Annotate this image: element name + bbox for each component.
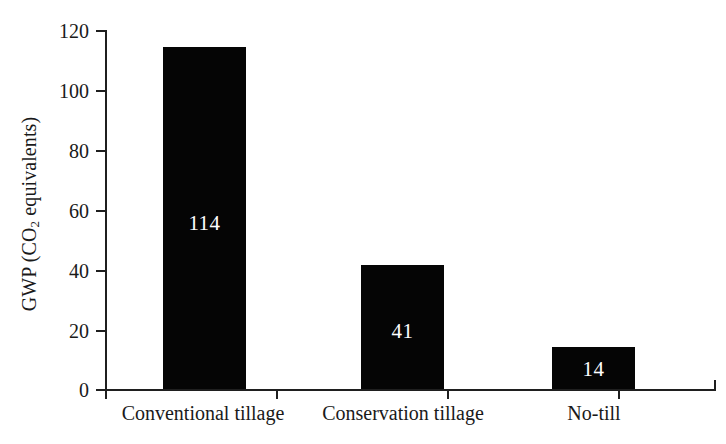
x-tick-2 [447,389,449,399]
y-axis-title-subscript: 2 [27,221,42,228]
y-tick-label-0: 0 [79,380,89,400]
bar-value-conservation-tillage: 41 [361,321,444,342]
x-tick-1 [276,389,278,399]
y-tick-80: 80 [96,150,105,152]
y-tick-label-20: 20 [69,321,89,341]
y-axis-line [105,30,107,391]
x-axis-label-conservation-tillage: Conservation tillage [305,400,501,426]
y-tick-40: 40 [96,270,105,272]
x-axis-label-no-till: No-till [512,400,676,426]
bar-conservation-tillage: 41 [361,265,444,389]
y-tick-label-40: 40 [69,261,89,281]
y-axis-title-prefix: GWP (CO [18,227,40,311]
y-axis-title: GWP (CO2 equivalents) [14,44,44,384]
bar-value-conventional-tillage: 114 [163,213,246,234]
bar-chart: GWP (CO2 equivalents) 120 100 80 60 40 2… [0,0,726,444]
y-tick-0: 0 [96,389,105,391]
y-axis-title-suffix: equivalents) [18,117,40,221]
y-tick-60: 60 [96,210,105,212]
y-tick-20: 20 [96,330,105,332]
bar-conventional-tillage: 114 [163,47,246,389]
x-tick-start [105,389,107,399]
x-axis-label-conventional-tillage: Conventional tillage [105,400,301,426]
x-tick-3 [618,389,620,399]
x-axis-line [105,389,716,391]
y-tick-label-120: 120 [59,21,89,41]
y-tick-label-80: 80 [69,141,89,161]
bar-no-till: 14 [552,347,635,389]
x-tick-end [714,380,716,390]
y-tick-100: 100 [96,90,105,92]
bar-value-no-till: 14 [552,359,635,380]
y-tick-label-100: 100 [59,81,89,101]
y-tick-label-60: 60 [69,201,89,221]
y-tick-120: 120 [96,30,105,32]
